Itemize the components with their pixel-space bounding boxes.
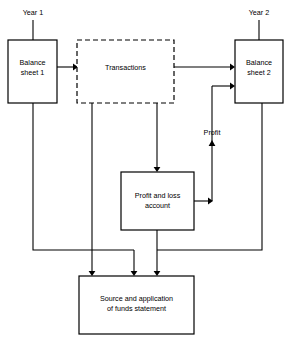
edge-bs1-to-bus [33,103,134,250]
arrowhead-profit-up [209,140,216,146]
funds-statement-label-line-2: of funds statement [107,304,166,313]
edge-transactions-to-bs2 [174,64,235,71]
year-1-label: Year 1 [23,8,44,17]
funds-statement-label-line-1: Source and application [100,294,173,303]
edge-bs1-to-transactions [57,64,78,71]
edge-transactions-to-pl [154,103,161,172]
edge-pl-profit-to-bs2 [194,83,235,205]
arrowhead-pl-to-funds [154,271,161,276]
arrowhead-transactions-to-pl [154,167,161,172]
balance-sheet-2-label-line-1: Balance [246,58,272,67]
balance-sheet-1-label-line-2: sheet 1 [21,68,45,77]
profit-edge-label: Profit [204,128,221,137]
accounting-flow-diagram: Year 1 Year 2 Balance sheet 1 Transactio… [0,0,290,344]
profit-loss-label-line-2: account [145,201,170,210]
arrowhead-bus-to-funds-middle [131,271,138,276]
arrowhead-transactions-to-bs2 [230,64,235,71]
diagram-canvas: Year 1 Year 2 Balance sheet 1 Transactio… [0,0,290,344]
arrowhead-profit-into-bs2 [230,83,235,90]
balance-sheet-1-label-line-1: Balance [20,58,46,67]
arrowhead-transactions-to-funds [89,271,96,276]
balance-sheet-2-label-line-2: sheet 2 [247,68,271,77]
year-2-label: Year 2 [249,8,270,17]
transactions-label: Transactions [105,63,146,72]
profit-loss-label-line-1: Profit and loss [135,191,181,200]
